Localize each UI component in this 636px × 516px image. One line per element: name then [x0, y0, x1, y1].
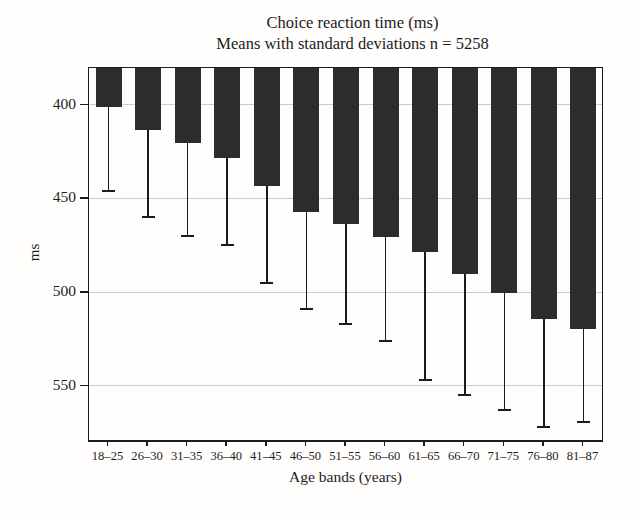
- error-bar-cap-46–50: [300, 308, 313, 310]
- x-axis-title: Age bands (years): [88, 468, 603, 486]
- x-tick-36–40: [225, 441, 227, 446]
- bar-31–35: [175, 68, 201, 143]
- x-tick-71–75: [503, 441, 505, 446]
- error-bar-line-71–75: [504, 293, 506, 409]
- error-bar-cap-31–35: [181, 235, 194, 237]
- error-bar-line-81–87: [583, 329, 585, 421]
- error-bar-cap-41–45: [260, 282, 273, 284]
- bar-51–55: [333, 68, 359, 224]
- x-tick-label-81–87: 81–87: [558, 449, 606, 464]
- x-tick-41–45: [265, 441, 267, 446]
- bar-76–80: [531, 68, 557, 319]
- error-bar-line-56–60: [385, 237, 387, 340]
- y-tick-label-550: 550: [32, 376, 76, 394]
- error-bar-cap-66–70: [458, 394, 471, 396]
- error-bar-cap-18–25: [102, 190, 115, 192]
- error-bar-cap-76–80: [537, 426, 550, 428]
- error-bar-line-51–55: [345, 224, 347, 323]
- x-tick-51–55: [344, 441, 346, 446]
- plot-area: [88, 67, 603, 442]
- error-bar-line-31–35: [187, 143, 189, 235]
- error-bar-cap-71–75: [498, 409, 511, 411]
- x-tick-76–80: [542, 441, 544, 446]
- x-tick-61–65: [423, 441, 425, 446]
- bar-61–65: [412, 68, 438, 252]
- x-tick-31–35: [186, 441, 188, 446]
- x-tick-81–87: [582, 441, 584, 446]
- error-bar-line-26–30: [147, 130, 149, 216]
- error-bar-line-66–70: [464, 274, 466, 394]
- y-tick-400: [80, 104, 88, 106]
- bar-71–75: [491, 68, 517, 293]
- bar-18–25: [96, 68, 122, 107]
- figure: Choice reaction time (ms) Means with sta…: [0, 0, 636, 516]
- error-bar-line-76–80: [543, 319, 545, 426]
- error-bar-line-36–40: [226, 158, 228, 244]
- bar-81–87: [570, 68, 596, 329]
- y-tick-450: [80, 197, 88, 199]
- y-tick-500: [80, 291, 88, 293]
- error-bar-cap-51–55: [339, 323, 352, 325]
- x-tick-56–60: [384, 441, 386, 446]
- x-tick-18–25: [107, 441, 109, 446]
- error-bar-cap-26–30: [142, 216, 155, 218]
- bar-26–30: [135, 68, 161, 130]
- error-bar-line-41–45: [266, 186, 268, 282]
- chart-title: Choice reaction time (ms): [95, 13, 610, 34]
- bar-66–70: [452, 68, 478, 274]
- error-bar-line-18–25: [108, 107, 110, 190]
- bar-46–50: [293, 68, 319, 212]
- chart-subtitle: Means with standard deviations n = 5258: [95, 34, 610, 55]
- bar-36–40: [214, 68, 240, 158]
- y-axis-title: ms: [26, 233, 43, 273]
- error-bar-line-46–50: [306, 212, 308, 308]
- x-tick-66–70: [463, 441, 465, 446]
- error-bar-cap-36–40: [221, 244, 234, 246]
- error-bar-cap-81–87: [577, 421, 590, 423]
- x-tick-26–30: [146, 441, 148, 446]
- error-bar-cap-56–60: [379, 340, 392, 342]
- error-bar-line-61–65: [424, 252, 426, 380]
- y-tick-label-400: 400: [32, 95, 76, 113]
- bar-41–45: [254, 68, 280, 186]
- error-bar-cap-61–65: [419, 379, 432, 381]
- chart-title-block: Choice reaction time (ms) Means with sta…: [95, 13, 610, 54]
- bar-56–60: [373, 68, 399, 237]
- y-tick-label-450: 450: [32, 188, 76, 206]
- y-tick-label-500: 500: [32, 282, 76, 300]
- y-tick-550: [80, 385, 88, 387]
- x-tick-46–50: [305, 441, 307, 446]
- gridline-550: [89, 385, 602, 386]
